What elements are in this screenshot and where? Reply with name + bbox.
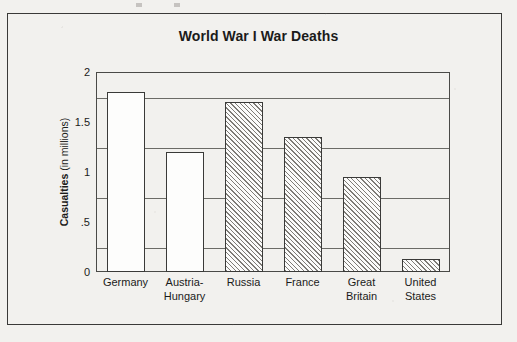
bar-russia	[225, 102, 263, 272]
y-axis-tick-label: .5	[81, 216, 90, 228]
bar-great-britain	[343, 177, 381, 272]
x-axis-label-great-britain: GreatBritain	[346, 276, 377, 303]
x-axis-label-germany: Germany	[103, 276, 148, 290]
plot-wrapper: 0.511.52	[96, 72, 450, 272]
x-axis-category-labels: GermanyAustria-HungaryRussiaFranceGreatB…	[96, 276, 450, 320]
bar-united-states	[402, 259, 440, 272]
scan-artifact-mark	[174, 3, 180, 7]
bar-germany	[107, 92, 145, 272]
y-axis-tick-label: 1.5	[75, 116, 90, 128]
y-axis-tick-label: 0	[84, 266, 90, 278]
bar-france	[284, 137, 322, 272]
x-axis-label-france: France	[285, 276, 319, 290]
y-axis-tick-label: 2	[84, 66, 90, 78]
x-axis-label-united-states: UnitedStates	[405, 276, 437, 303]
chart-title: World War I War Deaths	[0, 28, 517, 44]
scan-artifact-mark	[136, 3, 142, 7]
x-axis-label-russia: Russia	[227, 276, 261, 290]
bars-layer	[96, 72, 450, 272]
bar-austria-hungary	[166, 152, 204, 272]
x-axis-label-austria-hungary: Austria-Hungary	[164, 276, 206, 303]
y-axis-tick-label: 1	[84, 166, 90, 178]
y-axis-tick-labels: 0.511.52	[50, 72, 90, 272]
